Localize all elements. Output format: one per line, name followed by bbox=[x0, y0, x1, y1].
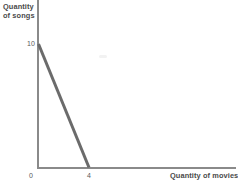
chart-figure: Quantity of songs Quantity of movies 10 … bbox=[0, 0, 238, 190]
x-tick-label-4: 4 bbox=[85, 172, 93, 179]
y-axis-title: Quantity of songs bbox=[3, 3, 35, 20]
ppf-line-svg bbox=[0, 0, 238, 190]
x-axis-title: Quantity of movies bbox=[170, 172, 238, 181]
ppf-line bbox=[39, 44, 90, 168]
x-tick-label-0: 0 bbox=[27, 172, 35, 179]
y-tick-label-10: 10 bbox=[25, 40, 35, 47]
